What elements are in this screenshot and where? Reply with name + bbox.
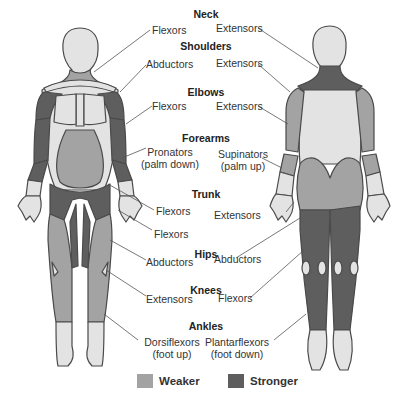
heading-elbows: Elbows: [184, 86, 228, 98]
label-dorsiflexors-line1: Dorsiflexors: [140, 336, 204, 348]
heading-neck: Neck: [186, 8, 226, 20]
label-trunk-flexors-lower: Flexors: [154, 228, 188, 240]
label-pronators-line1: Pronators: [140, 146, 200, 158]
label-supinators-line2: (palm up): [210, 160, 276, 172]
heading-trunk: Trunk: [186, 188, 226, 200]
heading-forearms: Forearms: [178, 132, 234, 144]
label-shoulders-abductors: Abductors: [146, 58, 193, 70]
label-plantarflexors-line2: (foot down): [202, 348, 272, 360]
legend-weaker: Weaker: [137, 374, 200, 388]
label-neck-extensors: Extensors: [216, 22, 263, 34]
label-elbows-flexors: Flexors: [152, 100, 186, 112]
heading-ankles: Ankles: [184, 320, 228, 332]
back-figure: [270, 26, 390, 370]
label-knees-extensors: Extensors: [146, 293, 193, 305]
label-pronators-line2: (palm down): [140, 158, 200, 170]
stronger-swatch: [228, 374, 244, 388]
label-neck-flexors: Flexors: [152, 24, 186, 36]
label-shoulders-extensors: Extensors: [216, 57, 263, 69]
label-hips-abductors-left: Abductors: [146, 256, 193, 268]
label-supinators-line1: Supinators: [210, 148, 276, 160]
label-plantarflexors-line1: Plantarflexors: [202, 336, 272, 348]
label-ankles-plantarflexors: Plantarflexors (foot down): [202, 336, 272, 360]
legend-stronger: Stronger: [228, 374, 298, 388]
heading-shoulders: Shoulders: [176, 40, 236, 52]
label-trunk-extensors: Extensors: [214, 209, 261, 221]
muscle-strength-diagram: Neck Flexors Extensors Shoulders Abducto…: [0, 0, 411, 401]
label-hips-abductors-right: Abductors: [214, 253, 261, 265]
label-elbows-extensors: Extensors: [216, 100, 263, 112]
stronger-label: Stronger: [250, 375, 298, 387]
weaker-label: Weaker: [159, 375, 200, 387]
front-figure: [18, 28, 142, 366]
label-trunk-flexors: Flexors: [156, 205, 190, 217]
label-knees-flexors: Flexors: [218, 292, 252, 304]
label-ankles-dorsiflexors: Dorsiflexors (foot up): [140, 336, 204, 360]
label-forearms-supinators: Supinators (palm up): [210, 148, 276, 172]
weaker-swatch: [137, 374, 153, 388]
label-dorsiflexors-line2: (foot up): [140, 348, 204, 360]
label-forearms-pronators: Pronators (palm down): [140, 146, 200, 170]
